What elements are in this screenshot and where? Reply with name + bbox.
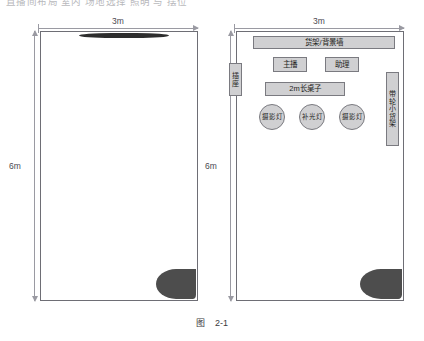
dimension-line [38,28,198,29]
assistant-position[interactable]: 助理 [325,57,359,72]
width-dimension-left: 3m [38,20,198,31]
fill-light-label: 补光灯 [302,114,323,121]
figure-2-1: 3m 6m 3m 6m [0,0,424,341]
long-table-label: 2m长桌子 [289,85,320,93]
dimension-line [34,31,35,301]
room-outline-studio: 货架/背景墙 主播 助理 2m长桌子 插座 带轮小货架 [236,31,404,301]
door-swing [156,269,196,299]
width-label-left: 3m [107,16,129,26]
dimension-arrow-up [32,30,38,36]
room-outline-empty [40,31,198,301]
dimension-arrow-right [399,25,405,31]
height-label-left: 6m [9,160,21,172]
dimension-arrow-up [228,30,234,36]
height-label-right: 6m [205,160,217,172]
width-label-right: 3m [308,16,330,26]
fill-light[interactable]: 补光灯 [299,104,325,130]
dimension-arrow-down [228,296,234,302]
backdrop-shelf-label: 货架/背景墙 [305,39,342,47]
height-dimension-left: 6m [26,31,38,301]
backdrop-shelf[interactable]: 货架/背景墙 [253,36,395,49]
photo-light-right-label: 摄影灯 [342,114,363,121]
dimension-tick-left [38,24,39,33]
dimension-tick-left [234,24,235,33]
door-swing [360,269,402,299]
caption-number: 2-1 [215,318,228,328]
host-position[interactable]: 主播 [273,57,307,72]
figure-caption: 图2-1 [0,316,424,329]
window-bar [79,33,169,38]
dimension-arrow-right [193,25,199,31]
panel-studio-room: 3m 6m 货架/背景墙 主播 助理 2m长桌子 [212,0,424,341]
dimension-arrow-down [32,296,38,302]
panel-empty-room: 3m 6m [0,0,212,341]
long-table[interactable]: 2m长桌子 [265,82,345,96]
wheeled-shelf-label: 带轮小货架 [389,90,396,128]
photo-light-left[interactable]: 摄影灯 [259,104,285,130]
caption-label: 图 [196,318,205,328]
assistant-label: 助理 [335,61,349,69]
wheeled-shelf[interactable]: 带轮小货架 [386,72,399,146]
dimension-line [234,28,404,29]
power-socket-label: 插座 [232,72,239,87]
photo-light-right[interactable]: 摄影灯 [339,104,365,130]
width-dimension-right: 3m [234,20,404,31]
power-socket[interactable]: 插座 [229,63,242,96]
host-label: 主播 [283,61,297,69]
photo-light-left-label: 摄影灯 [262,114,283,121]
